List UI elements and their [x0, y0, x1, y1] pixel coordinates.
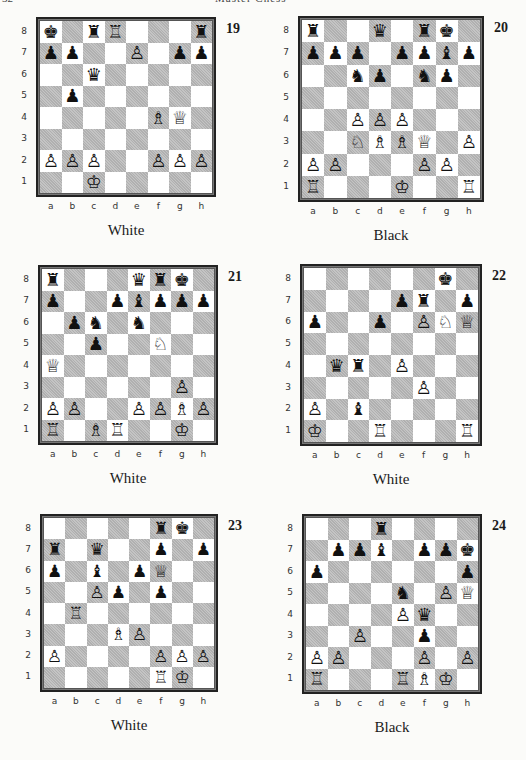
white-queen-icon: ♕	[172, 109, 188, 127]
square-c2: ♝	[348, 399, 370, 421]
square-h4	[193, 603, 214, 624]
square-f3	[148, 129, 170, 151]
rank-label: 2	[21, 403, 31, 413]
rank-label: 6	[283, 316, 293, 326]
side-to-move-caption: Black	[331, 227, 451, 244]
square-f6	[148, 64, 170, 86]
square-e3	[128, 377, 150, 399]
square-a3	[304, 377, 326, 399]
square-g2: ♙	[169, 150, 191, 172]
file-label: g	[171, 449, 193, 459]
file-label: d	[369, 206, 391, 216]
square-c2	[87, 646, 108, 667]
black-rook-icon: ♜	[153, 520, 168, 537]
square-c4	[83, 107, 105, 129]
square-g7: ♟	[171, 291, 193, 313]
square-g2	[435, 399, 457, 421]
black-rook-icon: ♜	[373, 520, 389, 538]
square-b6	[62, 64, 84, 86]
white-pawn-icon: ♙	[90, 584, 105, 601]
square-f6	[414, 561, 436, 583]
white-queen-icon: ♕	[459, 313, 475, 331]
rank-label: 5	[21, 338, 31, 348]
square-e1: ♖	[392, 669, 414, 691]
square-g8: ♚	[436, 20, 458, 42]
black-pawn-icon: ♟	[174, 292, 190, 310]
white-queen-icon: ♕	[45, 357, 61, 375]
black-knight-icon: ♞	[416, 67, 432, 85]
square-h3: ♙	[458, 131, 480, 153]
square-h3	[191, 129, 213, 151]
square-a2: ♙	[44, 646, 65, 667]
square-g4	[435, 355, 457, 377]
square-h8	[456, 268, 478, 290]
square-d6	[371, 561, 393, 583]
white-rook-icon: ♖	[372, 422, 388, 440]
square-d4	[371, 604, 393, 626]
square-f2	[413, 399, 435, 421]
square-c1	[349, 669, 371, 691]
square-a3	[302, 131, 324, 153]
square-c6: ♝	[87, 561, 108, 582]
square-d2	[371, 647, 393, 669]
file-label: d	[108, 696, 129, 706]
square-g4: ♕	[169, 107, 191, 129]
square-e4: ♙	[391, 109, 413, 131]
square-e4	[129, 603, 150, 624]
square-g6	[435, 561, 457, 583]
square-d2	[105, 150, 127, 172]
square-d6	[105, 64, 127, 86]
square-h4	[457, 604, 479, 626]
black-queen-icon: ♛	[329, 357, 345, 375]
white-pawn-icon: ♙	[350, 111, 366, 129]
rank-label: 5	[19, 90, 29, 100]
square-f8	[148, 21, 170, 43]
square-c8	[347, 20, 369, 42]
white-pawn-icon: ♙	[305, 156, 321, 174]
square-b2	[65, 646, 86, 667]
square-c2: ♙	[83, 150, 105, 172]
square-g3	[435, 377, 457, 399]
file-label: h	[193, 449, 215, 459]
file-label: f	[150, 449, 172, 459]
square-g3: ♙	[171, 377, 193, 399]
white-rook-icon: ♖	[309, 670, 325, 688]
square-a3	[306, 626, 328, 648]
white-pawn-icon: ♙	[461, 133, 477, 151]
black-bishop-icon: ♝	[131, 292, 147, 310]
square-d1: ♖	[369, 420, 391, 442]
square-d8: ♖	[105, 21, 127, 43]
square-f7: ♟	[150, 539, 171, 560]
square-b1	[64, 420, 86, 442]
square-g2: ♗	[171, 398, 193, 420]
diagram-number: 20	[494, 20, 508, 36]
square-d1	[371, 669, 393, 691]
square-f1: ♗	[414, 669, 436, 691]
square-e5	[126, 86, 148, 108]
square-a3	[44, 624, 65, 645]
rank-label: 1	[23, 671, 33, 681]
white-pawn-icon: ♙	[47, 648, 62, 665]
white-pawn-icon: ♙	[439, 156, 455, 174]
square-d3: ♗	[369, 131, 391, 153]
square-h6	[458, 65, 480, 87]
rank-label: 7	[21, 295, 31, 305]
square-d7: ♝	[371, 540, 393, 562]
square-d4	[108, 603, 129, 624]
square-c6	[348, 312, 370, 334]
black-pawn-icon: ♟	[305, 44, 321, 62]
black-pawn-icon: ♟	[196, 541, 211, 558]
square-e4	[126, 107, 148, 129]
square-c6: ♞	[85, 312, 107, 334]
square-g6: ♟	[436, 65, 458, 87]
square-d3: ♗	[108, 624, 129, 645]
chess-board: ♜♚♜♛♟♟♟♝♟♕♙♟♟♖♗♙♙♙♙♙♖♔	[40, 514, 218, 692]
square-g4	[171, 355, 193, 377]
black-pawn-icon: ♟	[372, 313, 388, 331]
square-f3: ♟	[414, 626, 436, 648]
white-king-icon: ♔	[307, 422, 323, 440]
rank-label: 5	[281, 92, 291, 102]
white-rook-icon: ♖	[45, 421, 61, 439]
square-h1	[193, 420, 215, 442]
file-label: h	[456, 450, 478, 460]
